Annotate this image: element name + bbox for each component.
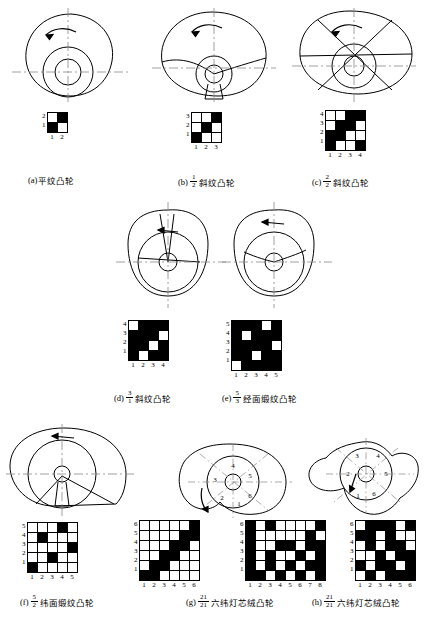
draft-h-cell <box>366 541 375 550</box>
draft-g1-cell <box>180 521 189 530</box>
draft-g2-cell <box>266 531 275 540</box>
draft-h-row-label: 4 <box>350 538 354 547</box>
draft-h-cell <box>386 531 395 540</box>
draft-g1-cell <box>140 561 149 570</box>
draft-b-cell <box>202 113 211 122</box>
rotation-arrow-g <box>201 488 208 512</box>
draft-g2-cell <box>266 561 275 570</box>
draft-g1-col-label: 1 <box>139 582 149 589</box>
draft-g2-col-label: 7 <box>305 582 315 589</box>
draft-g1-row-label: 1 <box>134 565 138 574</box>
caption-g-label: (g) <box>186 597 196 607</box>
draft-a-row-labels: 21 <box>42 112 46 130</box>
draft-e-cell <box>232 351 241 360</box>
rotation-arrow-b <box>192 25 222 37</box>
draft-h-col-label: 4 <box>385 582 395 589</box>
draft-g2-cell <box>296 531 305 540</box>
draft-f-cell <box>58 543 67 552</box>
draft-g2-cell <box>246 531 255 540</box>
figure-h-caption: (h) 21 21 六纬灯芯绒凸轮 <box>312 594 400 609</box>
draft-e-col-label: 2 <box>241 372 251 379</box>
draft-g2-cell <box>246 521 255 530</box>
draft-e-cell <box>252 321 261 330</box>
caption-e-label: (e) <box>222 393 231 403</box>
draft-h-cell <box>366 561 375 570</box>
draft-h-cell <box>356 541 365 550</box>
draft-e-cell <box>272 361 281 370</box>
draft-c-col-label: 4 <box>355 152 365 159</box>
draft-h-cell <box>396 531 405 540</box>
draft-g1-row-labels: 654321 <box>134 520 138 574</box>
draft-h-cell <box>406 531 415 540</box>
draft-e-cell <box>252 341 261 350</box>
draft-d-cell <box>129 341 138 350</box>
draft-h-cell <box>396 551 405 560</box>
draft-f-cell <box>38 523 47 532</box>
draft-g2-col-label: 3 <box>265 582 275 589</box>
draft-g1-cell <box>190 551 199 560</box>
draft-g2-row-label: 5 <box>240 529 244 538</box>
draft-g1-cell <box>180 531 189 540</box>
draft-h-row-label: 3 <box>350 547 354 556</box>
draft-e-row-label: 3 <box>226 338 230 347</box>
draft-g1-cell <box>150 531 159 540</box>
draft-g2-cell <box>306 551 315 560</box>
figure-f-cam-diagram <box>6 424 138 516</box>
caption-d-label: (d) <box>114 393 124 403</box>
cam-shape-g: 1 2 3 4 5 6 <box>170 440 300 520</box>
caption-c-label: (c) <box>312 177 321 187</box>
draft-g1-cell <box>150 541 159 550</box>
draft-g1-cell <box>160 541 169 550</box>
draft-h-cell <box>406 571 415 580</box>
sector-lines-h <box>326 438 414 512</box>
draft-g2-cell <box>266 521 275 530</box>
draft-e-cell <box>252 331 261 340</box>
draft-d-row-label: 1 <box>123 347 127 356</box>
caption-e-fraction: 5 3 <box>233 390 241 405</box>
draft-g2-cell <box>316 521 325 530</box>
caption-b-fraction: 1 2 <box>190 174 198 189</box>
draft-b-cell <box>202 123 211 132</box>
draft-g1-cell <box>140 541 149 550</box>
draft-h-cell <box>356 521 365 530</box>
caption-b-numerator: 1 <box>190 174 198 181</box>
draft-g2-cell <box>306 541 315 550</box>
caption-d-numerator: 3 <box>126 390 134 397</box>
draft-g2-cell <box>256 571 265 580</box>
draft-g1-cell <box>140 571 149 580</box>
draft-g2-cell <box>276 521 285 530</box>
draft-e-col-label: 1 <box>231 372 241 379</box>
draft-c-col-label: 1 <box>325 152 335 159</box>
draft-h-col-label: 1 <box>355 582 365 589</box>
rotation-arrow-e <box>262 220 284 226</box>
draft-h-cell <box>356 561 365 570</box>
draft-h-cell <box>366 521 375 530</box>
draft-c-cell <box>326 111 335 120</box>
draft-f-cell <box>68 533 77 542</box>
caption-f-denominator: 2 <box>31 601 39 609</box>
draft-f-cell <box>38 543 47 552</box>
sector-number-4: 4 <box>376 452 380 460</box>
draft-b-cell <box>192 133 201 142</box>
caption-c-fraction: 2 2 <box>323 174 331 189</box>
sector-numbers-g: 1 2 3 4 5 6 <box>213 462 252 508</box>
draft-c-cell <box>346 111 355 120</box>
draft-g2-cell <box>306 531 315 540</box>
draft-f-cell <box>68 553 77 562</box>
draft-g2-grid <box>245 520 326 581</box>
draft-h-cell <box>386 521 395 530</box>
draft-a-row-label: 1 <box>42 121 46 130</box>
draft-h-cell <box>386 541 395 550</box>
draft-e-cell <box>262 351 271 360</box>
draft-c-cell <box>336 111 345 120</box>
draft-g2-cell <box>306 571 315 580</box>
draft-e-cell <box>272 341 281 350</box>
draft-g1-cell <box>160 531 169 540</box>
draft-c-cell <box>356 111 365 120</box>
draft-f-cell <box>28 543 37 552</box>
caption-g-denominator: 21 <box>198 601 209 609</box>
draft-f-cell <box>68 523 77 532</box>
draft-g1-cell <box>140 521 149 530</box>
draft-g2-col-label: 2 <box>255 582 265 589</box>
draft-h-cell <box>376 531 385 540</box>
